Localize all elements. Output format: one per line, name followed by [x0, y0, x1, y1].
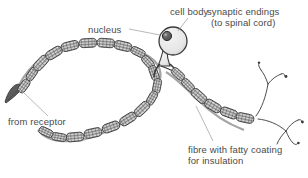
label-fibre-line1: fibre with fatty coating: [188, 144, 282, 155]
label-from-receptor: from receptor: [8, 116, 66, 127]
cell-body: [158, 27, 187, 66]
label-fibre-fatty-coating: fibre with fatty coating for insulation: [188, 144, 282, 166]
leader-nucleus: [129, 29, 160, 35]
neuron-diagram-figure: nucleus cell body synaptic endings (to s…: [0, 0, 308, 178]
leader-from-receptor: [22, 91, 48, 116]
label-nucleus: nucleus: [88, 24, 121, 35]
synaptic-terminals: [256, 61, 304, 144]
label-synaptic-endings: synaptic endings (to spinal cord): [207, 6, 279, 28]
myelin-segments-upper: [17, 38, 161, 94]
leader-cell-body: [178, 18, 188, 31]
nucleus: [162, 31, 171, 40]
label-synaptic-line2: (to spinal cord): [207, 17, 279, 28]
label-cell-body: cell body: [170, 6, 208, 17]
myelin-segments-lower: [38, 78, 163, 142]
label-fibre-line2: for insulation: [188, 155, 282, 166]
label-synaptic-line1: synaptic endings: [207, 6, 279, 17]
myelin-segments-axon: [170, 66, 255, 124]
